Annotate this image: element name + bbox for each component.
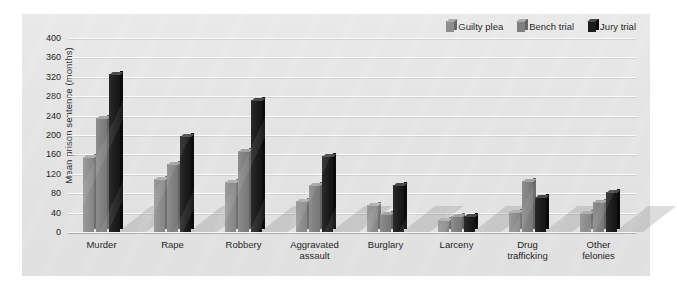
y-axis-tick: 80 bbox=[51, 188, 61, 198]
x-axis-label: Murder bbox=[66, 239, 137, 250]
bar[interactable] bbox=[180, 136, 191, 232]
chart-panel: Mean prison sentence (months) Guilty ple… bbox=[22, 14, 650, 276]
bar-group: Aggravated assault bbox=[296, 38, 333, 232]
bar[interactable] bbox=[322, 156, 333, 232]
x-axis-label: Burglary bbox=[350, 239, 421, 250]
bar[interactable] bbox=[83, 157, 94, 232]
bar[interactable] bbox=[109, 74, 120, 232]
bar[interactable] bbox=[535, 197, 546, 232]
bar[interactable] bbox=[296, 201, 307, 232]
y-axis-tick: 400 bbox=[46, 33, 61, 43]
x-axis-label: Rape bbox=[137, 239, 208, 250]
bar[interactable] bbox=[225, 182, 236, 232]
x-axis-label: Aggravated assault bbox=[279, 239, 350, 261]
y-axis-tick: 160 bbox=[46, 149, 61, 159]
bar[interactable] bbox=[580, 213, 591, 232]
bar-group-bars bbox=[225, 38, 262, 232]
y-axis-tick: 280 bbox=[46, 91, 61, 101]
bar-group-bars bbox=[580, 38, 617, 232]
bar-group: Murder bbox=[83, 38, 120, 232]
y-axis-tick: 360 bbox=[46, 52, 61, 62]
bar-group-bars bbox=[154, 38, 191, 232]
bar-group: Robbery bbox=[225, 38, 262, 232]
bar[interactable] bbox=[451, 216, 462, 232]
bar-group: Larceny bbox=[438, 38, 475, 232]
group-shadow bbox=[615, 206, 677, 232]
bar[interactable] bbox=[509, 212, 520, 232]
chart-legend: Guilty pleaBench trialJury trial bbox=[446, 21, 636, 32]
bar-group-bars bbox=[367, 38, 404, 232]
legend-label: Jury trial bbox=[600, 21, 636, 32]
bar[interactable] bbox=[167, 164, 178, 232]
bar-group: Drug trafficking bbox=[509, 38, 546, 232]
y-axis-tick: 120 bbox=[46, 169, 61, 179]
bar[interactable] bbox=[238, 151, 249, 232]
y-axis-tick: 40 bbox=[51, 208, 61, 218]
bar-group-bars bbox=[83, 38, 120, 232]
bar-group: Burglary bbox=[367, 38, 404, 232]
x-axis-label: Drug trafficking bbox=[492, 239, 563, 261]
bar-group-bars bbox=[509, 38, 546, 232]
bar[interactable] bbox=[522, 181, 533, 232]
legend-label: Guilty plea bbox=[458, 21, 503, 32]
x-axis-label: Larceny bbox=[421, 239, 492, 250]
x-axis-label: Robbery bbox=[208, 239, 279, 250]
bar[interactable] bbox=[393, 185, 404, 232]
y-axis-tick: 200 bbox=[46, 130, 61, 140]
bar[interactable] bbox=[96, 118, 107, 232]
x-axis-label: Other felonies bbox=[563, 239, 634, 261]
legend-swatch-icon bbox=[446, 21, 454, 32]
legend-swatch-icon bbox=[588, 21, 596, 32]
bar[interactable] bbox=[367, 205, 378, 232]
bar-group: Other felonies bbox=[580, 38, 617, 232]
legend-item[interactable]: Jury trial bbox=[588, 21, 636, 32]
bar-group-bars bbox=[296, 38, 333, 232]
bar[interactable] bbox=[309, 185, 320, 232]
bar[interactable] bbox=[380, 214, 391, 232]
bar[interactable] bbox=[593, 202, 604, 232]
bar[interactable] bbox=[154, 179, 165, 232]
bar[interactable] bbox=[606, 192, 617, 232]
bar[interactable] bbox=[251, 100, 262, 232]
bar[interactable] bbox=[464, 216, 475, 232]
bar-group-bars bbox=[438, 38, 475, 232]
bar[interactable] bbox=[438, 220, 449, 232]
y-axis-tick: 320 bbox=[46, 72, 61, 82]
legend-swatch-icon bbox=[517, 21, 525, 32]
legend-label: Bench trial bbox=[529, 21, 574, 32]
legend-item[interactable]: Guilty plea bbox=[446, 21, 503, 32]
y-axis-tick: 0 bbox=[56, 227, 61, 237]
plot-area: 40036032028024020016012080400MurderRapeR… bbox=[68, 38, 636, 232]
bar-group: Rape bbox=[154, 38, 191, 232]
gridline-0: 0 bbox=[68, 232, 636, 233]
legend-item[interactable]: Bench trial bbox=[517, 21, 574, 32]
y-axis-tick: 240 bbox=[46, 111, 61, 121]
